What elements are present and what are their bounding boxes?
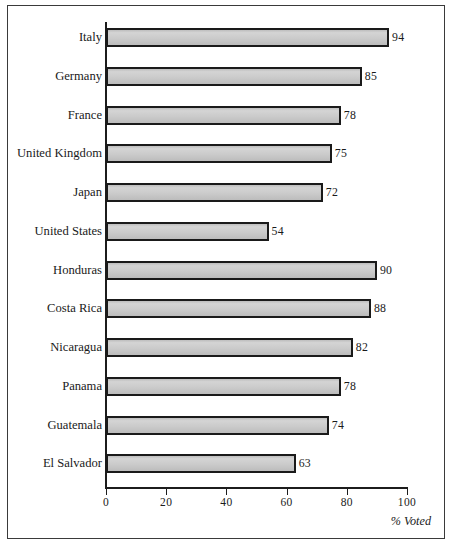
category-label-honduras: Honduras: [0, 255, 102, 285]
bar-value-costa-rica: 88: [371, 299, 386, 318]
bar-france: [106, 106, 341, 125]
category-label-united-states: United States: [0, 216, 102, 246]
x-tick-40: [226, 489, 227, 495]
bar-value-el-salvador: 63: [296, 454, 311, 473]
bar-row: Nicaragua82: [0, 332, 453, 362]
bar-value-france: 78: [341, 106, 356, 125]
category-label-el-salvador: El Salvador: [0, 448, 102, 478]
bar-costa-rica: [106, 299, 371, 318]
bar-value-united-states: 54: [269, 222, 284, 241]
bar-guatemala: [106, 416, 329, 435]
bar-row: El Salvador63: [0, 448, 453, 478]
x-tick-20: [166, 489, 167, 495]
bar-nicaragua: [106, 338, 353, 357]
bar-row: Italy94: [0, 22, 453, 52]
category-label-nicaragua: Nicaragua: [0, 332, 102, 362]
bar-italy: [106, 28, 389, 47]
bar-row: Honduras90: [0, 255, 453, 285]
x-tick-label-100: 100: [398, 496, 416, 508]
category-label-france: France: [0, 100, 102, 130]
x-tick-label-60: 60: [280, 496, 292, 508]
bar-row: Japan72: [0, 177, 453, 207]
x-tick-label-0: 0: [103, 496, 109, 508]
bar-chart-plot-area: 020406080100 Italy94Germany85France78Uni…: [0, 0, 453, 548]
x-tick-label-80: 80: [341, 496, 353, 508]
bar-value-united-kingdom: 75: [332, 144, 347, 163]
x-tick-80: [347, 489, 348, 495]
bar-value-guatemala: 74: [329, 416, 344, 435]
bar-united-states: [106, 222, 269, 241]
bar-row: Panama78: [0, 371, 453, 401]
bar-row: Costa Rica88: [0, 293, 453, 323]
bar-value-panama: 78: [341, 377, 356, 396]
bar-honduras: [106, 261, 377, 280]
bar-value-honduras: 90: [377, 261, 392, 280]
bar-value-nicaragua: 82: [353, 338, 368, 357]
bar-united-kingdom: [106, 144, 332, 163]
chart-screenshot: 020406080100 Italy94Germany85France78Uni…: [0, 0, 453, 548]
bar-japan: [106, 183, 323, 202]
category-label-germany: Germany: [0, 61, 102, 91]
bar-value-italy: 94: [389, 28, 404, 47]
bar-el-salvador: [106, 454, 296, 473]
bar-row: Guatemala74: [0, 410, 453, 440]
x-axis-line: [105, 487, 408, 489]
x-tick-100: [407, 489, 408, 495]
x-tick-label-20: 20: [160, 496, 172, 508]
bar-germany: [106, 67, 362, 86]
x-tick-60: [287, 489, 288, 495]
category-label-japan: Japan: [0, 177, 102, 207]
bar-row: United States54: [0, 216, 453, 246]
category-label-panama: Panama: [0, 371, 102, 401]
bar-panama: [106, 377, 341, 396]
category-label-italy: Italy: [0, 22, 102, 52]
category-label-costa-rica: Costa Rica: [0, 293, 102, 323]
x-tick-0: [106, 489, 107, 495]
bar-value-germany: 85: [362, 67, 377, 86]
category-label-guatemala: Guatemala: [0, 410, 102, 440]
category-label-united-kingdom: United Kingdom: [0, 138, 102, 168]
bar-row: United Kingdom75: [0, 138, 453, 168]
x-tick-label-40: 40: [220, 496, 232, 508]
x-axis-title: % Voted: [391, 514, 431, 529]
bar-value-japan: 72: [323, 183, 338, 202]
bar-row: France78: [0, 100, 453, 130]
bar-row: Germany85: [0, 61, 453, 91]
